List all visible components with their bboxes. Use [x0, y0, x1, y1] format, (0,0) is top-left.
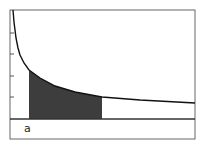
y-axis-ticks [10, 33, 14, 97]
integral-area-chart: a [0, 0, 203, 149]
label-a: a [24, 122, 31, 135]
